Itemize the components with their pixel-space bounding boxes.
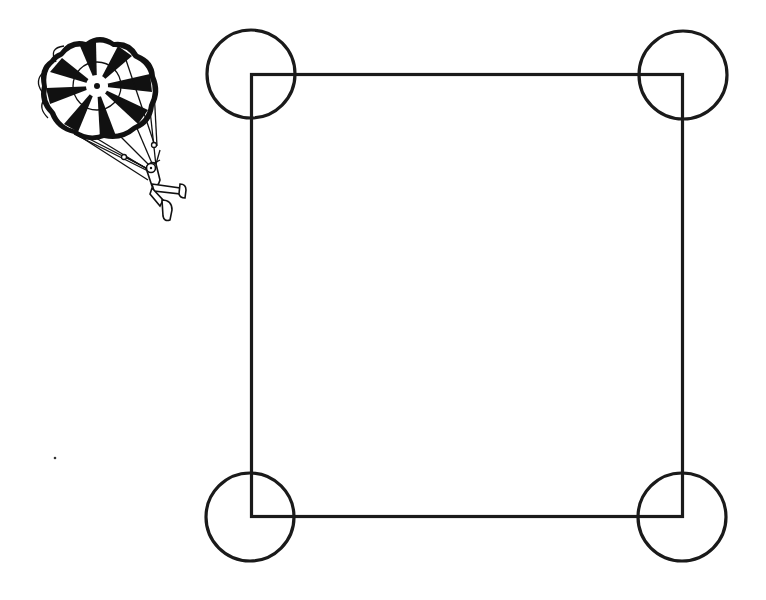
parachute-icon [38, 37, 186, 221]
stray-dot [54, 457, 57, 460]
square [252, 75, 683, 517]
diagram-canvas [0, 0, 766, 600]
canopy [38, 37, 158, 140]
jumper-figure [122, 143, 187, 221]
